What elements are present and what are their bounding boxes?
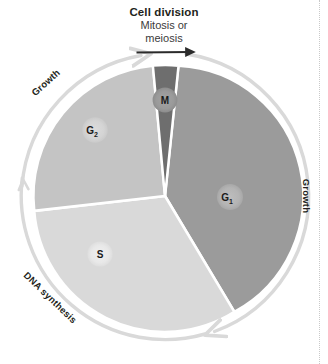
arc-label-growth-right: Growth [301, 179, 312, 213]
wedge-label-m: M [161, 95, 169, 106]
page-edge-dotted-rule [319, 0, 320, 364]
cell-cycle-svg: M G1 S G2 Growth Growth DNA synthesis [0, 0, 328, 364]
cell-division-arrow [137, 52, 191, 53]
arc-label-growth-left: Growth [29, 67, 62, 98]
wedge-label-s: S [97, 249, 104, 260]
cell-cycle-figure: M G1 S G2 Growth Growth DNA synthesis Ce… [0, 0, 328, 364]
